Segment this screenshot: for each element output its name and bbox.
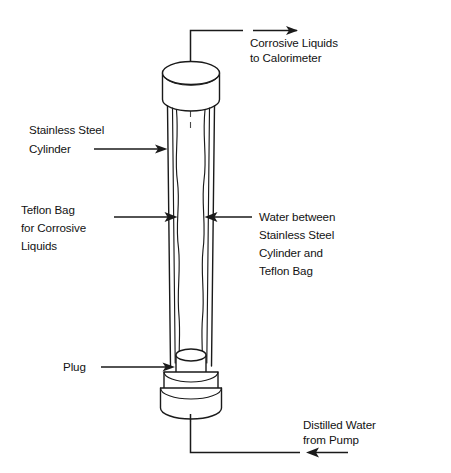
top-cap-cylinder — [163, 62, 220, 112]
corrosive-liquids-label: Corrosive Liquids to Calorimeter — [250, 36, 341, 64]
water-between-label: Water between Stainless Steel Cylinder a… — [259, 210, 338, 277]
teflon-bag-wall — [176, 110, 205, 362]
diagram-canvas: Corrosive Liquids to Calorimeter Stainle… — [0, 0, 451, 473]
leader-water-between — [205, 212, 253, 222]
leader-corrosive-liquids — [253, 26, 298, 35]
plug-label: Plug — [63, 360, 86, 373]
leader-stainless-steel-cylinder — [94, 145, 168, 154]
apparatus-diagram: Corrosive Liquids to Calorimeter Stainle… — [0, 0, 451, 473]
cylinder-body — [168, 106, 215, 366]
leader-teflon-bag — [114, 212, 178, 222]
leader-distilled-water — [306, 448, 348, 458]
leader-plug — [101, 363, 175, 372]
stainless-steel-cylinder-label: Stainless Steel Cylinder — [29, 123, 107, 155]
teflon-bag-label: Teflon Bag for Corrosive Liquids — [21, 203, 89, 252]
inlet-pipe — [191, 414, 301, 453]
distilled-water-label: Distilled Water from Pump — [303, 418, 379, 446]
